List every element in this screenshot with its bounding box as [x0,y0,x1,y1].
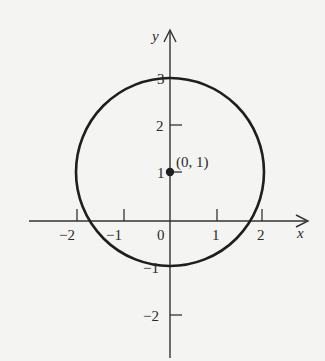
y-tick-label-2: 2 [156,118,164,134]
center-point-label: (0, 1) [176,154,209,171]
x-tick-label-neg2: −2 [59,227,75,243]
y-axis-label: y [150,28,159,44]
x-tick-label-1: 1 [212,227,220,243]
x-axis-label: x [296,225,304,241]
circle-diagram: y x −2 −1 0 1 2 3 2 1 −1 −2 (0, 1) [0,0,325,361]
y-tick-label-1: 1 [157,165,165,181]
y-tick-label-neg2: −2 [143,308,159,324]
x-tick-label-0: 0 [157,227,165,243]
center-point [166,168,174,176]
y-tick-label-3: 3 [157,71,165,87]
y-tick-label-neg1: −1 [143,260,159,276]
x-tick-label-2: 2 [257,227,265,243]
x-tick-label-neg1: −1 [106,227,122,243]
